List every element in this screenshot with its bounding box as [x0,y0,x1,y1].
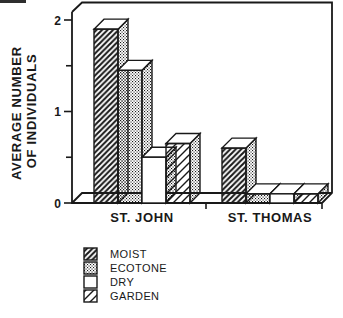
y-tick-label-2: 2 [54,14,61,28]
y-axis-title-line2: OF INDIVIDUALS [24,54,39,169]
legend-label-ecotone: ECOTONE [110,262,167,274]
legend-item-ecotone: ECOTONE [84,262,167,274]
bar-front-face [118,70,142,203]
bar-front-face [166,144,190,203]
bar-front-face [270,194,294,203]
y-axis-title: AVERAGE NUMBER OF INDIVIDUALS [9,42,39,180]
category-label-st-thomas: ST. THOMAS [228,210,313,225]
bar-front-face [94,29,118,203]
legend: MOISTECOTONEDRYGARDEN [84,248,167,302]
scan-artifact-mark [0,0,26,3]
chart-svg: AVERAGE NUMBER OF INDIVIDUALS 012 ST. JO… [0,0,343,318]
legend-label-dry: DRY [110,276,134,288]
legend-swatch-hatch-dense-icon [84,248,97,260]
figure: AVERAGE NUMBER OF INDIVIDUALS 012 ST. JO… [0,0,343,318]
legend-item-garden: GARDEN [84,290,159,302]
bar-front-face [246,194,270,203]
bar-side-face [190,134,200,203]
y-tick-label-1: 1 [54,105,61,119]
svg-text:AVERAGE NUMBER OF INDI: AVERAGE NUMBER OF INDIVIDUALS [9,42,39,180]
bar-front-face [222,148,246,203]
bar-st-john-garden [166,134,200,203]
legend-item-moist: MOIST [84,248,147,260]
bar-front-face [294,194,318,203]
bars-layer [94,19,328,203]
legend-label-moist: MOIST [110,248,147,260]
legend-item-dry: DRY [84,276,134,288]
y-ticks-layer: 012 [54,14,72,211]
category-label-st-john: ST. JOHN [110,210,173,225]
y-axis-title-line1: AVERAGE NUMBER [9,46,24,180]
bar-front-face [142,157,166,203]
legend-swatch-stipple-icon [84,262,97,274]
legend-label-garden: GARDEN [110,290,159,302]
legend-swatch-plain-icon [84,276,97,288]
y-tick-label-0: 0 [54,197,61,211]
legend-swatch-hatch-sparse-icon [84,290,97,302]
x-category-labels: ST. JOHNST. THOMAS [110,210,312,225]
